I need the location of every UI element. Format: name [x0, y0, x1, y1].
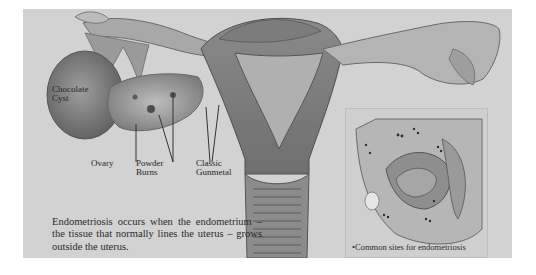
- label-chocolate-cyst: Chocolate Cyst: [52, 85, 89, 103]
- label-line: Cyst: [52, 94, 89, 103]
- inset-caption: •Common sites for endometriosis: [352, 242, 466, 252]
- label-line: Burns: [136, 168, 164, 177]
- label-powder-burns: Powder Burns: [136, 159, 164, 177]
- anatomy-illustration: Chocolate Cyst Ovary Powder Burns Classi…: [23, 9, 512, 258]
- label-line: Gunmetal: [196, 168, 232, 177]
- pelvis-diagram: [346, 109, 488, 258]
- label-ovary: Ovary: [91, 159, 114, 168]
- endometriosis-description: Endometriosis occurs when the endometriu…: [52, 216, 262, 253]
- inset-pelvic-cross-section: •Common sites for endometriosis: [345, 108, 488, 258]
- label-classic-gunmetal: Classic Gunmetal: [196, 159, 232, 177]
- inset-caption-text: Common sites for endometriosis: [355, 242, 466, 252]
